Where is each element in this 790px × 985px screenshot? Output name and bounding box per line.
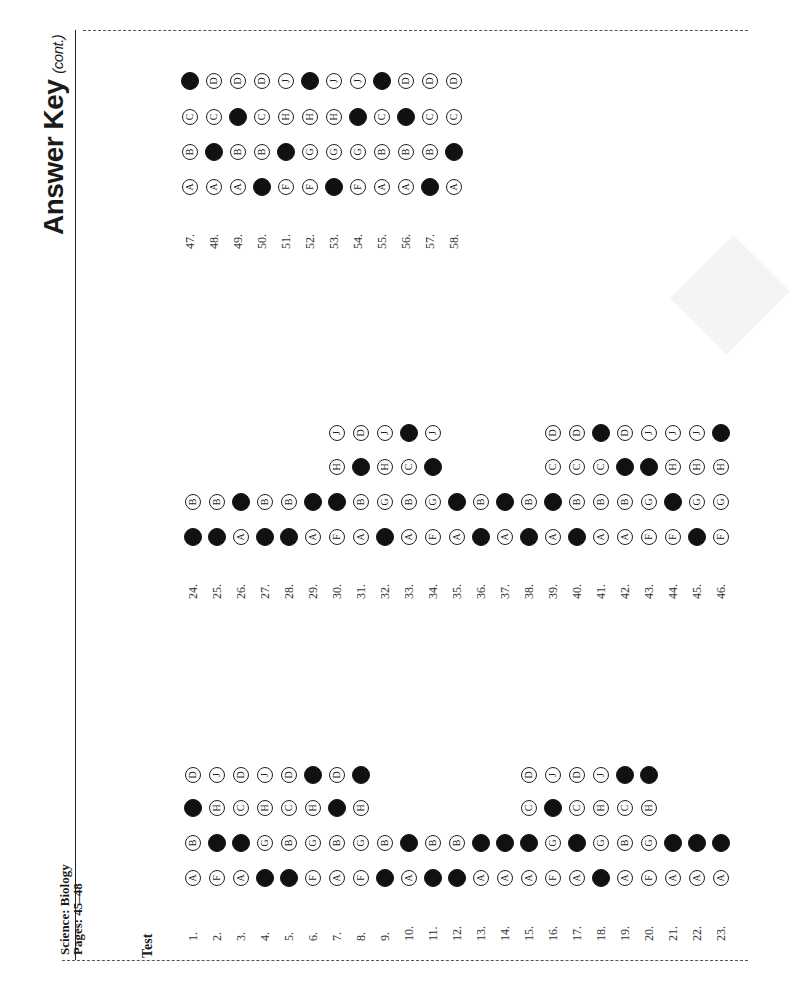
filled-bubble-b: B <box>232 834 250 852</box>
bubble-b: B <box>593 494 609 510</box>
bubble-f: F <box>209 870 225 886</box>
bubble-b: B <box>569 494 585 510</box>
filled-bubble-d: D <box>181 72 199 90</box>
question-number: 30. <box>327 577 349 599</box>
filled-bubble-f: F <box>325 178 343 196</box>
page-shadow <box>670 235 790 355</box>
bubble-c: C <box>254 109 270 125</box>
question-number: 2. <box>207 919 229 941</box>
question-number: 56. <box>396 227 418 249</box>
bubble-f: F <box>425 529 441 545</box>
filled-bubble-b: B <box>520 834 538 852</box>
question-number: 27. <box>255 577 277 599</box>
filled-bubble-d: D <box>400 424 418 442</box>
bubble-a: A <box>473 870 489 886</box>
question-number: 15. <box>519 919 541 941</box>
question-number: 39. <box>543 577 565 599</box>
bubble-h: H <box>353 800 369 816</box>
bubble-g: G <box>350 144 366 160</box>
bubble-d: D <box>353 425 369 441</box>
filled-bubble-h: H <box>424 458 442 476</box>
bubble-c: C <box>281 800 297 816</box>
bubble-h: H <box>278 109 294 125</box>
bubble-g: G <box>257 835 273 851</box>
bubble-f: F <box>353 870 369 886</box>
question-number: 9. <box>375 919 397 941</box>
bubble-b: B <box>329 835 345 851</box>
question-number: 33. <box>399 577 421 599</box>
question-number: 46. <box>711 577 733 599</box>
bubble-f: F <box>713 529 729 545</box>
bubble-c: C <box>182 109 198 125</box>
filled-bubble-j: J <box>301 72 319 90</box>
filled-bubble-b: B <box>400 834 418 852</box>
question-number: 24. <box>183 577 205 599</box>
bubble-b: B <box>401 494 417 510</box>
bubble-f: F <box>305 870 321 886</box>
bubble-b: B <box>230 144 246 160</box>
bubble-h: H <box>209 800 225 816</box>
bubble-b: B <box>377 835 393 851</box>
bubble-d: D <box>569 767 585 783</box>
bubble-j: J <box>665 425 681 441</box>
bubble-a: A <box>617 870 633 886</box>
bubble-a: A <box>230 179 246 195</box>
bubble-b: B <box>185 835 201 851</box>
filled-bubble-b: B <box>448 493 466 511</box>
question-number: 14. <box>495 919 517 941</box>
bubble-a: A <box>233 870 249 886</box>
filled-bubble-b: B <box>664 834 682 852</box>
bubble-a: A <box>446 179 462 195</box>
bubble-a: A <box>374 179 390 195</box>
question-number: 54. <box>348 227 370 249</box>
bubble-a: A <box>569 870 585 886</box>
bubble-d: D <box>422 73 438 89</box>
question-number: 36. <box>471 577 493 599</box>
bubble-d: D <box>329 767 345 783</box>
question-number: 37. <box>495 577 517 599</box>
bubble-g: G <box>302 144 318 160</box>
question-number: 50. <box>252 227 274 249</box>
question-number: 8. <box>351 919 373 941</box>
filled-bubble-a: A <box>472 528 490 546</box>
question-number: 41. <box>591 577 613 599</box>
bubble-c: C <box>569 459 585 475</box>
filled-bubble-g: G <box>208 834 226 852</box>
filled-bubble-d: D <box>592 424 610 442</box>
filled-bubble-g: G <box>664 493 682 511</box>
filled-bubble-a: A <box>568 528 586 546</box>
filled-bubble-b: B <box>544 493 562 511</box>
bubble-f: F <box>302 179 318 195</box>
question-number: 42. <box>615 577 637 599</box>
bubble-c: C <box>233 800 249 816</box>
bubble-d: D <box>254 73 270 89</box>
page-title: Answer Key(cont.) <box>38 35 70 235</box>
bubble-b: B <box>353 494 369 510</box>
question-number: 23. <box>711 919 733 941</box>
filled-bubble-a: A <box>421 178 439 196</box>
subject-info: Science: Biology Pages: 45–48 <box>58 864 84 955</box>
bubble-b: B <box>185 494 201 510</box>
question-number: 4. <box>255 919 277 941</box>
filled-bubble-f: F <box>256 869 274 887</box>
bubble-a: A <box>713 870 729 886</box>
bubble-c: C <box>374 109 390 125</box>
bubble-b: B <box>617 494 633 510</box>
filled-bubble-j: J <box>352 766 370 784</box>
filled-bubble-h: H <box>349 108 367 126</box>
bubble-g: G <box>689 494 705 510</box>
filled-bubble-a: A <box>424 869 442 887</box>
bubble-j: J <box>425 425 441 441</box>
filled-bubble-b: B <box>205 143 223 161</box>
bubble-h: H <box>641 800 657 816</box>
filled-bubble-a: A <box>448 869 466 887</box>
bubble-h: H <box>713 459 729 475</box>
bubble-d: D <box>545 425 561 441</box>
bubble-j: J <box>545 767 561 783</box>
question-number: 13. <box>471 919 493 941</box>
filled-bubble-b: B <box>568 834 586 852</box>
bubble-g: G <box>641 835 657 851</box>
filled-bubble-h: H <box>640 458 658 476</box>
bubble-b: B <box>209 494 225 510</box>
bubble-a: A <box>617 529 633 545</box>
